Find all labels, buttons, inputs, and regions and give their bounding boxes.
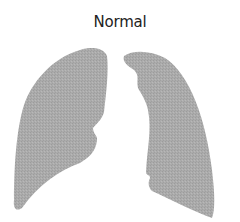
left-lung-shape [14,48,108,210]
lungs-diagram [0,0,240,222]
right-lung-shape [124,52,215,218]
